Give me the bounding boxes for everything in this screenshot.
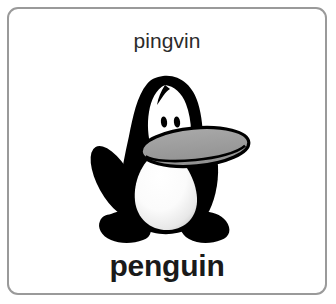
word-top-label: pingvin xyxy=(9,30,325,51)
penguin-illustration xyxy=(79,64,259,249)
flashcard: pingvin xyxy=(7,7,327,295)
word-bottom-label: penguin xyxy=(9,251,325,281)
